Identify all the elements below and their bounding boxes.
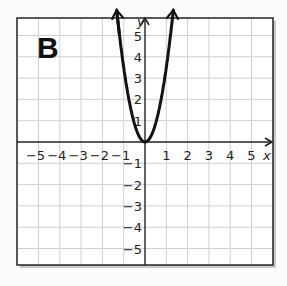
svg-text:3: 3 (134, 71, 142, 86)
svg-text:−4: −4 (47, 148, 66, 163)
svg-text:3: 3 (205, 148, 213, 163)
svg-text:4: 4 (134, 50, 142, 65)
svg-text:1: 1 (162, 148, 170, 163)
svg-text:5: 5 (247, 148, 255, 163)
svg-text:−3: −3 (123, 199, 142, 214)
y-axis-label: y (136, 14, 145, 29)
svg-text:−1: −1 (123, 156, 142, 171)
svg-text:−5: −5 (26, 148, 45, 163)
svg-text:2: 2 (183, 148, 191, 163)
svg-text:−4: −4 (123, 220, 142, 235)
svg-text:−2: −2 (123, 178, 142, 193)
svg-text:4: 4 (226, 148, 234, 163)
svg-text:−2: −2 (90, 148, 109, 163)
svg-text:−5: −5 (123, 242, 142, 257)
svg-text:5: 5 (134, 29, 142, 44)
svg-text:2: 2 (134, 92, 142, 107)
graph-panel: −5−4−3−2−11234554321−1−2−3−4−5 y x B (0, 0, 287, 286)
svg-text:−3: −3 (69, 148, 88, 163)
panel-letter: B (37, 31, 59, 65)
x-axis-label: x (262, 148, 271, 163)
